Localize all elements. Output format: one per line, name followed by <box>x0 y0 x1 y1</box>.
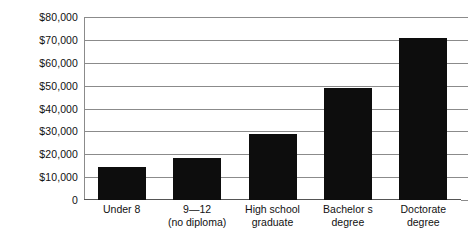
x-axis-label-line-2: degree <box>386 216 461 229</box>
bars <box>84 17 461 200</box>
y-axis-tick-label: 0 <box>0 195 78 206</box>
x-axis-tick-label: 9—12(no diploma) <box>159 203 234 228</box>
x-axis-tick-label: High schoolgraduate <box>235 203 310 228</box>
y-axis-tick-label: $60,000 <box>0 57 78 68</box>
y-axis-tick-mark <box>461 131 468 132</box>
bar <box>324 88 372 200</box>
x-axis-label-line-2: (no diploma) <box>159 216 234 229</box>
y-axis-tick-mark <box>461 154 468 155</box>
x-axis-tick-label: Under 8 <box>84 203 159 216</box>
x-axis-label-line-1: 9—12 <box>183 203 211 215</box>
y-axis-tick-mark <box>461 40 468 41</box>
x-axis-tick-labels: Under 89—12(no diploma)High schoolgradua… <box>84 203 461 248</box>
bar <box>249 134 297 200</box>
y-axis-tick-label: $70,000 <box>0 34 78 45</box>
y-axis-tick-mark <box>461 109 468 110</box>
x-axis-label-line-1: Under 8 <box>103 203 140 215</box>
x-axis-tick-label: Doctoratedegree <box>386 203 461 228</box>
y-axis-tick-mark <box>461 63 468 64</box>
x-axis-label-line-1: Doctorate <box>401 203 447 215</box>
bar <box>98 167 146 200</box>
x-axis-tick-label: Bachelor sdegree <box>310 203 385 228</box>
x-axis-label-line-2: graduate <box>235 216 310 229</box>
y-axis-tick-label: $50,000 <box>0 80 78 91</box>
plot-area <box>84 17 461 200</box>
bar-chart: 0$10,000$20,000$30,000$40,000$50,000$60,… <box>0 0 469 248</box>
bar <box>399 38 447 200</box>
x-axis-label-line-1: High school <box>245 203 300 215</box>
y-axis-tick-label: $30,000 <box>0 126 78 137</box>
bar <box>173 158 221 200</box>
y-axis-tick-label: $80,000 <box>0 12 78 23</box>
x-axis-label-line-2: degree <box>310 216 385 229</box>
y-axis-tick-label: $40,000 <box>0 103 78 114</box>
y-axis-tick-mark <box>461 17 468 18</box>
y-axis-tick-label: $20,000 <box>0 149 78 160</box>
x-axis-label-line-1: Bachelor s <box>323 203 373 215</box>
y-axis-tick-mark <box>461 177 468 178</box>
y-axis-tick-mark <box>461 86 468 87</box>
y-axis-tick-label: $10,000 <box>0 172 78 183</box>
y-axis-tick-mark <box>461 200 468 201</box>
